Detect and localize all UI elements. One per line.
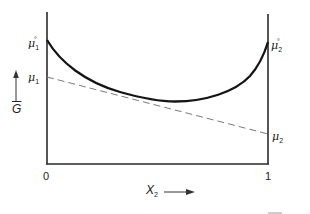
gibbs-energy-diagram: μ1° μ1 μ2° μ2 G 0 1 X2 (0, 0, 310, 214)
tangent-line (47, 77, 268, 134)
up-arrow-icon (13, 70, 19, 78)
mu1-standard-label: μ1° (28, 34, 37, 53)
superscript: ° (277, 38, 280, 45)
subscript: 1 (35, 78, 39, 85)
subscript: 2 (154, 191, 158, 198)
x-tick-1: 1 (265, 171, 271, 182)
y-axis-label: G (12, 104, 21, 115)
x-tick-0: 0 (43, 171, 49, 182)
superscript: ° (34, 36, 37, 43)
subscript: 2 (278, 46, 282, 53)
x-axis-label: X2 (146, 185, 158, 200)
mu2-label: μ2 (272, 131, 283, 146)
mu2-standard-label: μ2° (271, 36, 280, 55)
x-axis-variable: X (146, 183, 154, 197)
mu1-label: μ1 (28, 72, 39, 87)
subscript: 2 (279, 137, 283, 144)
right-arrow-icon (186, 189, 195, 195)
subscript: 1 (35, 44, 39, 51)
gibbs-energy-curve (47, 40, 268, 102)
